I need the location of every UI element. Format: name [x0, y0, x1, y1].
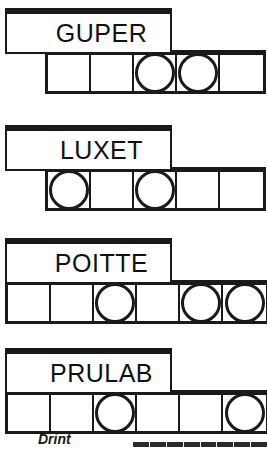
answer-cell[interactable]	[51, 285, 94, 321]
answer-cell[interactable]	[51, 395, 94, 431]
answer-grid	[5, 280, 267, 324]
answer-cell[interactable]	[177, 55, 220, 91]
word-label-box: GUPER	[5, 8, 172, 54]
circle-marker-icon	[225, 393, 265, 433]
answer-cell[interactable]	[94, 395, 137, 431]
word-label-box: LUXET	[5, 125, 172, 171]
circle-marker-icon	[178, 53, 218, 93]
answer-cell[interactable]	[91, 172, 134, 208]
circle-marker-icon	[181, 283, 221, 323]
answer-cell[interactable]	[223, 395, 266, 431]
answer-cell[interactable]	[137, 285, 180, 321]
puzzle-page: GUPERLUXETPOITTEPRULAB Drint	[0, 0, 267, 452]
answer-cell[interactable]	[8, 395, 51, 431]
word-label-box: PRULAB	[5, 348, 172, 394]
answer-cell[interactable]	[177, 172, 220, 208]
answer-cell[interactable]	[48, 55, 91, 91]
answer-cell[interactable]	[180, 395, 223, 431]
circle-marker-icon	[225, 283, 265, 323]
word-label-text: PRULAB	[24, 361, 153, 386]
circle-marker-icon	[49, 170, 89, 210]
circle-marker-icon	[135, 170, 175, 210]
circle-marker-icon	[135, 53, 175, 93]
answer-cell[interactable]	[137, 395, 180, 431]
footer-word-label: Drint	[38, 432, 71, 446]
circle-marker-icon	[95, 283, 135, 323]
answer-grid	[5, 390, 267, 434]
answer-cell[interactable]	[180, 285, 223, 321]
answer-grid	[45, 167, 266, 211]
answer-cell[interactable]	[134, 55, 177, 91]
answer-cell[interactable]	[220, 172, 263, 208]
answer-cell[interactable]	[94, 285, 137, 321]
circle-marker-icon	[95, 393, 135, 433]
answer-cell[interactable]	[134, 172, 177, 208]
answer-grid	[45, 50, 266, 94]
word-label-text: GUPER	[30, 21, 147, 46]
word-label-text: LUXET	[34, 138, 143, 163]
answer-cell[interactable]	[8, 285, 51, 321]
answer-cell[interactable]	[48, 172, 91, 208]
answer-cell[interactable]	[220, 55, 263, 91]
word-label-text: POITTE	[29, 251, 148, 276]
word-label-box: POITTE	[5, 238, 172, 284]
answer-cell[interactable]	[223, 285, 266, 321]
footer-answer-bar-ticks	[133, 442, 267, 447]
answer-cell[interactable]	[91, 55, 134, 91]
